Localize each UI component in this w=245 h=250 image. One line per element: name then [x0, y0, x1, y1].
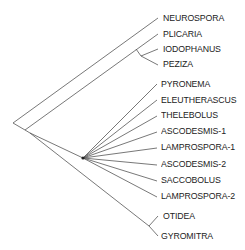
branch-plicaria [25, 34, 158, 130]
branch-pyronema [83, 84, 157, 158]
taxon-label-gyromitra: GYROMITRA [161, 230, 213, 241]
taxon-label-eleutherascus: ELEUTHERASCUS [161, 94, 237, 105]
branch-neurospora [13, 18, 158, 123]
branch-thelebolus [83, 116, 157, 158]
branch-otidea [149, 216, 158, 226]
branch-root-node2 [13, 123, 25, 130]
branch-ascodesmis-1 [83, 132, 157, 158]
polytomy-node [81, 156, 84, 159]
taxon-label-plicaria: PLICARIA [163, 28, 202, 39]
branch-gyromitra [149, 226, 158, 236]
taxon-label-iodophanus: IODOPHANUS [163, 43, 221, 54]
taxon-label-otidea: OTIDEA [163, 210, 195, 221]
taxon-label-ascodesmis-1: ASCODESMIS-1 [161, 125, 226, 136]
taxon-label-peziza: PEZIZA [163, 58, 193, 69]
taxon-label-thelebolus: THELEBOLUS [161, 109, 218, 120]
taxon-label-lamprospora-2: LAMPROSPORA-2 [161, 190, 235, 201]
taxon-label-saccobolus: SACCOBOLUS [161, 174, 221, 185]
branch-node3-otgy [30, 133, 149, 226]
taxon-label-pyronema: PYRONEMA [161, 78, 210, 89]
branch-iod-pez-stem [136, 49, 141, 56]
branch-node2-node3 [25, 130, 30, 133]
taxon-label-ascodesmis-2: ASCODESMIS-2 [161, 158, 226, 169]
taxon-label-lamprospora-1: LAMPROSPORA-1 [161, 141, 235, 152]
taxon-label-neurospora: NEUROSPORA [163, 12, 224, 23]
branch-node3-polytomy [30, 133, 83, 158]
branch-iodophanus [141, 49, 158, 56]
branch-peziza [141, 56, 158, 65]
